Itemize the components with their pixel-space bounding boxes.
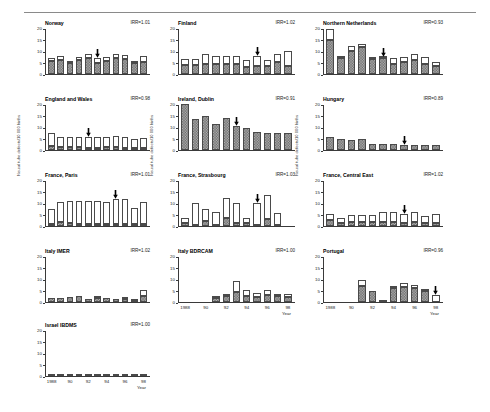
bar-segment-terminations bbox=[85, 137, 92, 148]
panel-title: Northern Netherlands bbox=[323, 20, 376, 26]
bar-segment-livebirths bbox=[432, 66, 440, 74]
bar bbox=[348, 140, 356, 150]
y-axis-line bbox=[45, 331, 46, 377]
bar-segment-terminations bbox=[85, 201, 92, 224]
x-tick-label: 98 bbox=[141, 379, 146, 384]
x-tick-label: 92 bbox=[86, 379, 91, 384]
bar-segment-livebirths bbox=[411, 288, 419, 302]
bar-segment-livebirths bbox=[421, 64, 429, 74]
bar-segment-terminations bbox=[326, 29, 334, 40]
bar-segment-terminations bbox=[122, 137, 129, 148]
bar bbox=[243, 60, 250, 74]
y-tick bbox=[321, 63, 323, 64]
bar-segment-terminations bbox=[181, 218, 188, 224]
bar-segment-terminations bbox=[223, 198, 230, 218]
bar-segment-livebirths bbox=[57, 374, 64, 376]
y-tick-label: 10 bbox=[170, 202, 175, 206]
x-axis-line bbox=[45, 302, 150, 303]
bar bbox=[400, 57, 408, 74]
y-tick-label: 10 bbox=[37, 352, 42, 356]
bar-segment-terminations bbox=[76, 137, 83, 148]
y-tick bbox=[176, 105, 178, 106]
bar-segment-livebirths bbox=[379, 144, 387, 150]
bar-segment-livebirths bbox=[284, 133, 291, 150]
bar-segment-terminations bbox=[113, 54, 120, 58]
y-tick-label: 10 bbox=[37, 278, 42, 282]
y-tick-label: 0 bbox=[40, 225, 42, 229]
bar-segment-livebirths bbox=[140, 296, 147, 302]
bar-segment-terminations bbox=[103, 137, 110, 148]
bar bbox=[400, 283, 408, 302]
y-tick-label: 5 bbox=[318, 213, 320, 217]
bar-segment-livebirths bbox=[113, 147, 120, 150]
x-axis-title: Year bbox=[282, 311, 291, 316]
bar bbox=[94, 201, 101, 226]
bar bbox=[202, 116, 209, 150]
bar-segment-livebirths bbox=[379, 222, 387, 226]
bar-segment-livebirths bbox=[369, 222, 377, 226]
bar-segment-terminations bbox=[113, 136, 120, 147]
bar-segment-livebirths bbox=[76, 224, 83, 226]
bar-segment-livebirths bbox=[131, 374, 138, 376]
plot-area: 05101520 bbox=[45, 181, 150, 227]
plot-area: 05101520 bbox=[178, 257, 295, 303]
y-tick-label: 0 bbox=[318, 301, 320, 305]
bar-segment-livebirths bbox=[48, 298, 55, 302]
bar-segment-livebirths bbox=[103, 147, 110, 150]
y-tick bbox=[176, 181, 178, 182]
bar-segment-terminations bbox=[131, 208, 138, 225]
y-tick-label: 10 bbox=[170, 278, 175, 282]
panel-header: France, Central EastIRR=1.02 bbox=[323, 172, 443, 181]
bar-segment-livebirths bbox=[122, 299, 129, 302]
y-tick-label: 20 bbox=[170, 255, 175, 259]
x-axis-line bbox=[178, 74, 295, 75]
bar bbox=[67, 137, 74, 150]
bar bbox=[243, 218, 250, 226]
bar-segment-terminations bbox=[122, 55, 129, 59]
y-tick bbox=[43, 63, 45, 64]
y-tick bbox=[176, 280, 178, 281]
bar-segment-livebirths bbox=[400, 287, 408, 302]
bar bbox=[390, 212, 398, 226]
panel-title: France, Strasbourg bbox=[178, 172, 226, 178]
bar-segment-terminations bbox=[264, 195, 271, 220]
x-tick-label: 90 bbox=[203, 305, 208, 310]
y-tick-label: 15 bbox=[170, 266, 175, 270]
bar bbox=[48, 298, 55, 302]
bar bbox=[358, 44, 366, 74]
bar-segment-terminations bbox=[233, 56, 240, 64]
bar bbox=[379, 212, 387, 226]
bar-segment-livebirths bbox=[94, 224, 101, 226]
y-tick bbox=[176, 227, 178, 228]
bar-segment-livebirths bbox=[192, 119, 199, 150]
y-axis-line bbox=[323, 181, 324, 227]
bar-segment-livebirths bbox=[131, 148, 138, 150]
y-tick bbox=[321, 280, 323, 281]
plot-area: 05101520 bbox=[178, 105, 295, 151]
y-tick-label: 10 bbox=[170, 50, 175, 54]
bar-segment-terminations bbox=[400, 283, 408, 287]
bar bbox=[94, 297, 101, 302]
bar bbox=[390, 144, 398, 150]
bar bbox=[122, 375, 129, 376]
bar-segment-livebirths bbox=[67, 297, 74, 302]
plot-area: 05101520 bbox=[323, 29, 443, 75]
bar bbox=[48, 209, 55, 226]
y-tick bbox=[321, 151, 323, 152]
panel-irr-label: IRR=1.00 bbox=[275, 248, 295, 253]
bar bbox=[326, 29, 334, 74]
bar-segment-livebirths bbox=[57, 147, 64, 150]
bar-segment-livebirths bbox=[103, 374, 110, 376]
bar bbox=[264, 195, 271, 226]
y-axis-line bbox=[178, 29, 179, 75]
bar bbox=[48, 375, 55, 376]
x-tick-label: 94 bbox=[104, 379, 109, 384]
y-tick-label: 20 bbox=[37, 179, 42, 183]
bar-segment-livebirths bbox=[326, 137, 334, 150]
bar-segment-livebirths bbox=[400, 223, 408, 226]
y-tick-label: 0 bbox=[40, 301, 42, 305]
y-tick-label: 20 bbox=[170, 27, 175, 31]
bar bbox=[103, 57, 110, 74]
bar-segment-terminations bbox=[274, 294, 281, 296]
x-tick-label: 94 bbox=[391, 305, 396, 310]
